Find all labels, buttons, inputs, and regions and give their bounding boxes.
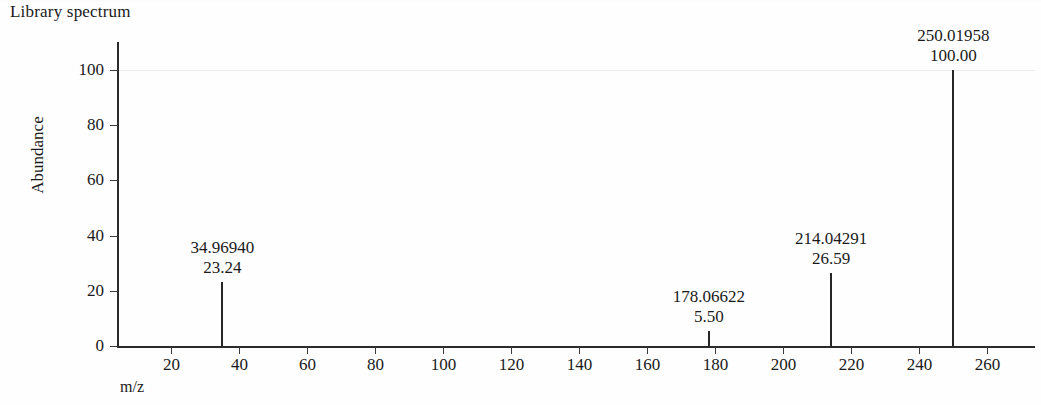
peak-mz-value: 250.01958 bbox=[888, 26, 1018, 46]
x-tick-mark bbox=[579, 347, 580, 354]
x-tick-label: 200 bbox=[758, 356, 808, 373]
peak-abundance-value: 5.50 bbox=[644, 307, 774, 327]
plot-area: 100806040200 204060801001201401601802002… bbox=[0, 0, 1041, 405]
peak-label: 250.01958100.00 bbox=[888, 26, 1018, 66]
y-tick-mark bbox=[110, 236, 118, 237]
y-tick-label: 60 bbox=[62, 171, 104, 188]
peak-abundance-value: 23.24 bbox=[157, 258, 287, 278]
x-axis-spine bbox=[117, 346, 1035, 348]
spectrum-figure: Library spectrum Abundance m/z 100806040… bbox=[0, 0, 1041, 405]
peak-abundance-value: 100.00 bbox=[888, 46, 1018, 66]
y-tick-mark bbox=[110, 125, 118, 126]
peak-mz-value: 34.96940 bbox=[157, 238, 287, 258]
x-tick-label: 100 bbox=[418, 356, 468, 373]
x-tick-mark bbox=[307, 347, 308, 354]
y-tick-mark bbox=[110, 346, 118, 347]
x-tick-label: 260 bbox=[962, 356, 1012, 373]
y-tick-label: 40 bbox=[62, 227, 104, 244]
y-tick-label: 80 bbox=[62, 116, 104, 133]
peak-label: 178.066225.50 bbox=[644, 287, 774, 327]
x-tick-mark bbox=[783, 347, 784, 354]
x-tick-label: 220 bbox=[826, 356, 876, 373]
peak-line bbox=[708, 331, 710, 346]
y-tick-mark bbox=[110, 180, 118, 181]
y-tick-label: 100 bbox=[62, 61, 104, 78]
x-tick-label: 240 bbox=[894, 356, 944, 373]
x-tick-label: 180 bbox=[690, 356, 740, 373]
x-tick-label: 40 bbox=[214, 356, 264, 373]
peak-abundance-value: 26.59 bbox=[766, 249, 896, 269]
y-tick-mark bbox=[110, 70, 118, 71]
y-tick-label: 0 bbox=[62, 337, 104, 354]
faint-gridline-100 bbox=[117, 70, 1035, 71]
x-tick-label: 60 bbox=[282, 356, 332, 373]
x-tick-mark bbox=[919, 347, 920, 354]
peak-mz-value: 214.04291 bbox=[766, 229, 896, 249]
peak-label: 34.9694023.24 bbox=[157, 238, 287, 278]
y-tick-mark bbox=[110, 291, 118, 292]
x-tick-label: 160 bbox=[622, 356, 672, 373]
peak-line bbox=[221, 282, 223, 346]
x-tick-mark bbox=[851, 347, 852, 354]
y-axis-spine bbox=[117, 42, 119, 348]
x-tick-mark bbox=[647, 347, 648, 354]
x-tick-mark bbox=[987, 347, 988, 354]
peak-label: 214.0429126.59 bbox=[766, 229, 896, 269]
x-tick-label: 120 bbox=[486, 356, 536, 373]
peak-mz-value: 178.06622 bbox=[644, 287, 774, 307]
peak-line bbox=[830, 273, 832, 346]
x-tick-mark bbox=[239, 347, 240, 354]
x-tick-label: 80 bbox=[350, 356, 400, 373]
y-tick-label: 20 bbox=[62, 282, 104, 299]
x-tick-label: 140 bbox=[554, 356, 604, 373]
x-tick-mark bbox=[171, 347, 172, 354]
x-tick-mark bbox=[375, 347, 376, 354]
x-tick-mark bbox=[715, 347, 716, 354]
x-tick-mark bbox=[511, 347, 512, 354]
peak-line bbox=[952, 70, 954, 346]
x-tick-label: 20 bbox=[146, 356, 196, 373]
x-tick-mark bbox=[443, 347, 444, 354]
